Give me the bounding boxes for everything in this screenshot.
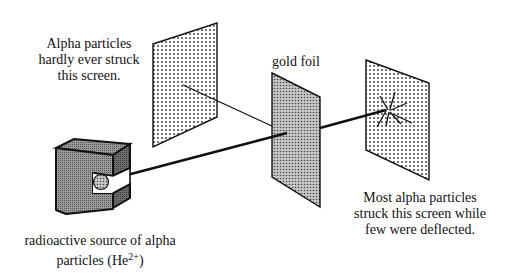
back-scatter-screen xyxy=(153,23,217,147)
alpha-beam xyxy=(108,133,287,180)
radioactive-sample xyxy=(94,175,109,190)
charge-superscript: 2+ xyxy=(128,251,139,262)
gold-foil-label: gold foil xyxy=(272,54,320,70)
back-scatter-note: Alpha particles hardly ever struck this … xyxy=(24,36,154,84)
radioactive-source-box xyxy=(56,139,130,214)
gold-foil-panel xyxy=(272,73,320,207)
source-label: radioactive source of alpha particles (H… xyxy=(12,233,188,269)
source-label-line2: particles (He2+) xyxy=(12,249,188,269)
detector-screen xyxy=(366,60,429,180)
detector-note: Most alpha particles struck this screen … xyxy=(334,190,506,238)
